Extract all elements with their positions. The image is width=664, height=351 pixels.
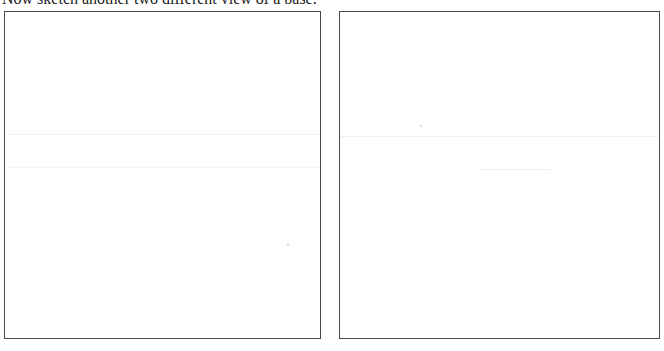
sketch-box-view-2[interactable] — [339, 11, 660, 339]
instruction-text: Now sketch another two different view of… — [2, 0, 317, 7]
scan-artifact-line — [5, 167, 320, 168]
scan-artifact-line — [480, 169, 550, 170]
scan-artifact-line — [340, 136, 659, 137]
sketch-box-view-1[interactable] — [4, 11, 321, 339]
scan-artifact-line — [5, 134, 320, 135]
scan-artifact-speck — [420, 125, 422, 127]
scan-artifact-speck — [287, 244, 289, 246]
